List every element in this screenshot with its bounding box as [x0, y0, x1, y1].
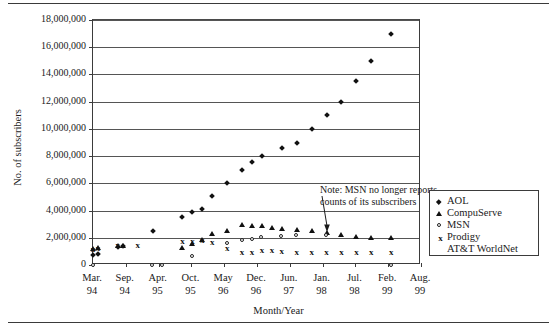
gridline: [93, 102, 419, 103]
data-point-prodigy: x: [278, 247, 285, 256]
data-point-aol: [339, 99, 345, 105]
data-point-prodigy: x: [338, 248, 345, 257]
y-axis-tick: [89, 238, 93, 239]
legend-marker-diamond-icon: [436, 196, 447, 207]
y-axis-tick: [89, 74, 93, 75]
y-axis-tick: [89, 156, 93, 157]
data-point-aol: [279, 145, 285, 151]
x-axis-tick: [290, 263, 291, 267]
y-axis-tick: [89, 102, 93, 103]
y-axis-tick-label: 2,000,000: [46, 232, 86, 242]
legend-glyph: [436, 199, 441, 204]
data-point-prodigy: x: [94, 244, 101, 253]
data-point-compuserve: [249, 223, 255, 228]
legend-label: AT&T WorldNet: [447, 243, 518, 255]
x-axis-tick: [191, 263, 192, 267]
chart-page: No. of subscribers 18,000,00016,000,0001…: [0, 0, 557, 331]
data-point-prodigy: x: [388, 248, 395, 257]
data-point-aol: [209, 193, 215, 199]
x-tick-month: Aug.: [398, 272, 442, 285]
data-point-prodigy: x: [209, 238, 216, 247]
data-point-prodigy: x: [189, 237, 196, 246]
legend-glyph: [436, 211, 442, 216]
data-point-prodigy: x: [353, 248, 360, 257]
y-axis-tick-label: 0: [81, 259, 86, 269]
data-point-msn: [150, 263, 154, 267]
data-point-compuserve: [239, 222, 245, 227]
data-point-aol: [388, 31, 394, 37]
data-point-msn: [389, 263, 393, 267]
data-point-aol: [259, 153, 265, 159]
legend-label: CompuServe: [447, 207, 502, 219]
x-axis-tick: [126, 263, 127, 267]
data-point-aol: [324, 112, 330, 118]
x-axis-tick-label: Aug.99: [398, 272, 442, 297]
data-point-msn: [240, 238, 244, 242]
data-point-msn: [294, 233, 298, 237]
gridline: [93, 20, 419, 21]
data-point-prodigy: x: [134, 241, 141, 250]
data-point-aol: [294, 140, 300, 146]
data-point-prodigy: x: [323, 248, 330, 257]
data-point-compuserve: [224, 228, 230, 233]
data-point-prodigy: x: [239, 248, 246, 257]
y-axis-tick: [89, 129, 93, 130]
legend-label: Prodigy: [447, 231, 480, 243]
gridline: [93, 74, 419, 75]
data-point-prodigy: x: [249, 248, 256, 257]
data-point-msn: [250, 237, 254, 241]
x-axis-tick: [224, 263, 225, 267]
y-axis-tick-label: 12,000,000: [41, 96, 86, 106]
y-axis-tick-label: 6,000,000: [46, 177, 86, 187]
x-axis-tick: [355, 263, 356, 267]
page-rule-top: [8, 3, 549, 4]
data-point-aol: [354, 78, 360, 84]
gridline: [93, 156, 419, 157]
x-axis-tick: [257, 263, 258, 267]
data-point-prodigy: x: [293, 248, 300, 257]
data-point-prodigy: x: [224, 244, 231, 253]
y-axis-tick-label: 10,000,000: [41, 123, 86, 133]
data-point-msn: [190, 254, 194, 258]
y-axis-tick-label: 18,000,000: [41, 14, 86, 24]
y-axis-tick-label: 8,000,000: [46, 150, 86, 160]
data-point-compuserve: [388, 235, 394, 240]
legend-label: AOL: [447, 195, 469, 207]
data-point-compuserve: [259, 223, 265, 228]
y-axis-tick-label: 16,000,000: [41, 41, 86, 51]
data-point-prodigy: x: [179, 237, 186, 246]
gridline: [93, 129, 419, 130]
x-axis-tick: [421, 263, 422, 267]
data-point-compuserve: [269, 225, 275, 230]
data-point-prodigy: x: [308, 248, 315, 257]
data-point-aol: [150, 228, 156, 234]
x-axis-title: Month/Year: [0, 305, 557, 316]
legend-glyph: x: [436, 232, 445, 244]
legend-marker-x-icon: x: [436, 232, 447, 243]
plot-area: xxxxxxxxxxxxxxxxxxxxx Note: MSN no longe…: [92, 19, 420, 264]
data-point-prodigy: x: [258, 246, 265, 255]
chart-legend: AOLCompuServeMSNxProdigyAT&T WorldNet: [429, 190, 539, 256]
data-point-prodigy: x: [268, 246, 275, 255]
data-point-compuserve: [368, 235, 374, 240]
data-point-aol: [224, 180, 230, 186]
y-axis-tick-label: 14,000,000: [41, 68, 86, 78]
legend-item: xProdigy: [436, 231, 538, 243]
x-tick-year: 99: [398, 285, 442, 298]
data-point-compuserve: [209, 231, 215, 236]
data-point-aol: [249, 159, 255, 165]
legend-marker-triangle-icon: [436, 208, 447, 219]
data-point-compuserve: [309, 228, 315, 233]
data-point-msn: [160, 263, 164, 267]
data-point-compuserve: [338, 232, 344, 237]
legend-item: CompuServe: [436, 207, 538, 219]
data-point-aol: [239, 167, 245, 173]
y-axis-tick: [89, 20, 93, 21]
legend-marker-none-icon: [436, 244, 447, 255]
legend-label: MSN: [447, 219, 470, 231]
data-point-aol: [180, 215, 186, 221]
data-point-aol: [309, 126, 315, 132]
legend-marker-open-circle-icon: [436, 220, 447, 231]
data-point-compuserve: [279, 226, 285, 231]
page-rule-bottom: [8, 322, 549, 323]
